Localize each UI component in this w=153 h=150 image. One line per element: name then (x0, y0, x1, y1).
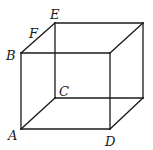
label-F: F (28, 26, 39, 41)
label-C: C (59, 84, 69, 99)
edge-top-right-connector (110, 23, 143, 53)
label-D: D (104, 134, 116, 149)
label-B: B (5, 48, 16, 63)
edge-D-back-bottom-right (110, 98, 143, 129)
label-A: A (7, 128, 17, 143)
label-E: E (49, 7, 60, 22)
cuboid-diagram: E F B C A D (0, 0, 153, 150)
edge-AC (21, 98, 55, 129)
